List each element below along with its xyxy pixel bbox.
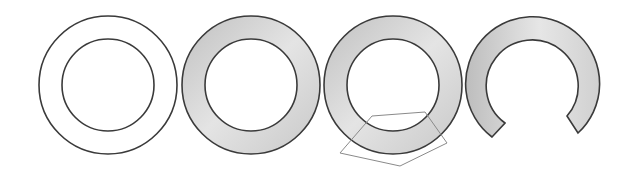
ring-cut (466, 17, 600, 137)
ring-outline (39, 16, 177, 154)
ring-diagram (0, 0, 626, 181)
inner-circle (62, 39, 154, 131)
ring-filled (182, 16, 320, 154)
inner-circle (347, 39, 439, 131)
ring-with-pentagon (324, 16, 462, 166)
c-shape-annulus (466, 17, 600, 137)
inner-circle (205, 39, 297, 131)
